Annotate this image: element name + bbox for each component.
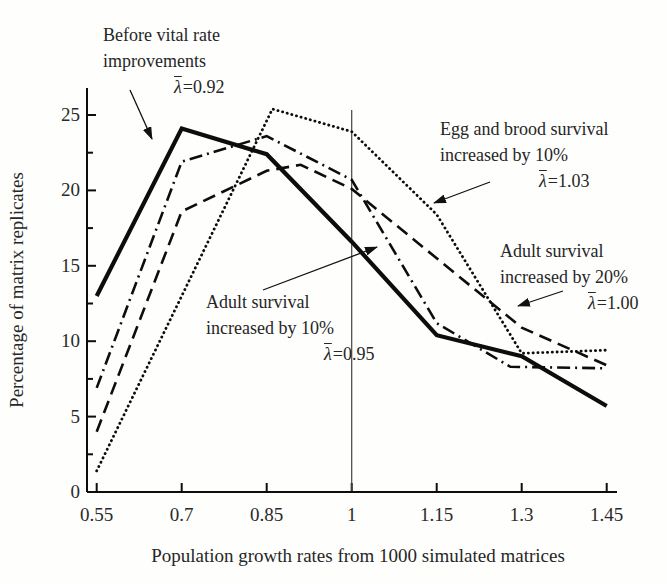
annotation-lambda: λ=0.95 [323, 341, 374, 367]
annotation-adult-survival-20: Adult survival increased by 20% λ=1.00 [500, 238, 638, 316]
y-tick-label: 15 [61, 255, 80, 276]
annotation-before-vital-rate: Before vital rate improvements λ=0.92 [103, 22, 224, 100]
y-tick-label: 20 [61, 179, 80, 200]
x-tick-label: 0.85 [250, 504, 283, 525]
y-tick-label: 5 [71, 406, 81, 427]
lambda-value: =0.92 [183, 77, 225, 97]
x-tick-label: 0.55 [80, 504, 113, 525]
annotation-text-line: Adult survival [206, 289, 374, 315]
annotation-egg-brood-survival: Egg and brood survival increased by 10% … [440, 116, 608, 194]
annotation-lambda: λ=1.03 [538, 168, 608, 194]
annotation-lambda: λ=0.92 [173, 74, 224, 100]
figure: 05101520250.550.70.8511.151.31.45 Percen… [0, 0, 667, 584]
annotation-lambda: λ=1.00 [587, 290, 638, 316]
annotation-text-line: improvements [103, 48, 224, 74]
lambda-symbol: λ [587, 293, 597, 313]
annotation-text-line: increased by 10% [440, 142, 608, 168]
lambda-value: =1.00 [597, 293, 639, 313]
y-axis-label: Percentage of matrix replicates [6, 172, 28, 408]
annotation-adult-survival-10: Adult survival increased by 10% λ=0.95 [206, 289, 374, 367]
y-tick-label: 25 [61, 104, 80, 125]
x-axis-label: Population growth rates from 1000 simula… [151, 545, 565, 567]
annotation-text-line: Egg and brood survival [440, 116, 608, 142]
lambda-symbol: λ [173, 77, 183, 97]
x-tick-label: 0.7 [170, 504, 194, 525]
x-tick-label: 1.15 [420, 504, 453, 525]
annotation-text-line: Adult survival [500, 238, 638, 264]
x-tick-label: 1 [347, 504, 357, 525]
lambda-value: =1.03 [548, 171, 590, 191]
x-tick-label: 1.3 [510, 504, 534, 525]
lambda-value: =0.95 [333, 344, 375, 364]
y-tick-label: 10 [61, 330, 80, 351]
lambda-symbol: λ [538, 171, 548, 191]
x-tick-label: 1.45 [590, 504, 623, 525]
annotation-text-line: Before vital rate [103, 22, 224, 48]
annotation-text-line: increased by 20% [500, 264, 638, 290]
lambda-symbol: λ [323, 344, 333, 364]
annotation-text-line: increased by 10% [206, 315, 374, 341]
annotation-arrow [263, 247, 377, 290]
y-tick-label: 0 [71, 481, 81, 502]
